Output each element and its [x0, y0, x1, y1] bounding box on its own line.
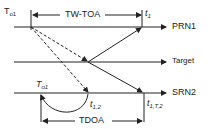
- curved-arrow: [41, 94, 88, 112]
- srn2-label: SRN2: [172, 88, 196, 97]
- reflection-to-prn1: [88, 28, 141, 62]
- tw-toa-label: TW-TOA: [65, 10, 100, 19]
- target-label: Target: [172, 57, 194, 65]
- t12-hat-label: t1,2: [90, 100, 101, 110]
- tdoa-label: TDOA: [79, 116, 104, 125]
- t-o1-label: To1: [4, 7, 16, 17]
- prn1-label: PRN1: [172, 22, 196, 31]
- reflection-to-srn2: [88, 62, 142, 92]
- t1-hat-label: t1: [145, 9, 151, 19]
- t1t2-hat-label: t1,T,2: [147, 99, 163, 109]
- dashed-to-target: [31, 27, 87, 61]
- t-o1-hat-label: To1: [36, 80, 48, 90]
